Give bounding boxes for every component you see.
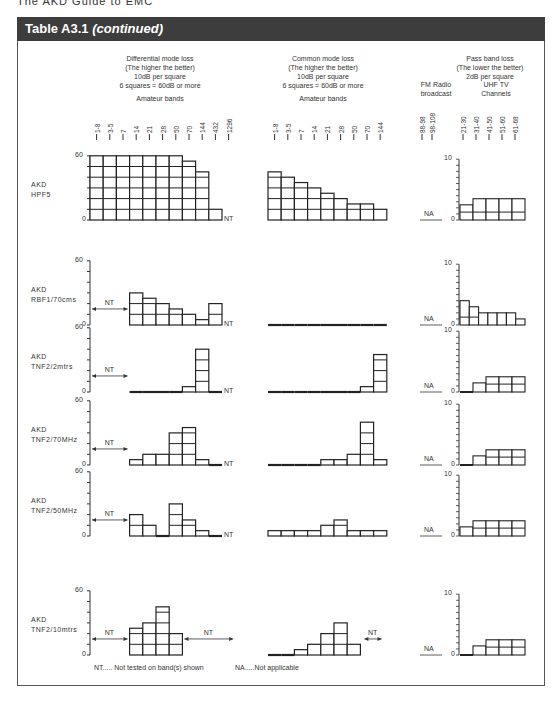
nt-label: NT — [224, 460, 233, 467]
y-axis-zero: 0 — [82, 650, 86, 657]
nt-label: NT — [224, 320, 233, 327]
pass-y-zero: 0 — [451, 387, 455, 394]
nt-label: NT — [368, 629, 377, 636]
nt-label: NT — [105, 510, 114, 517]
chart-canvas — [0, 0, 555, 703]
na-label: NA — [424, 315, 434, 322]
y-axis-max: 60 — [75, 396, 83, 403]
legend-na: NA.....Not applicable — [235, 664, 299, 671]
nt-label: NT — [204, 629, 213, 636]
pass-y-max: 10 — [444, 470, 452, 477]
y-axis-max: 60 — [75, 467, 83, 474]
pass-y-max: 10 — [444, 399, 452, 406]
y-axis-zero: 0 — [82, 387, 86, 394]
pass-y-max: 10 — [444, 589, 452, 596]
pass-y-zero: 0 — [451, 460, 455, 467]
legend-nt: NT..... Not tested on band(s) shown — [94, 664, 204, 671]
na-label: NA — [424, 645, 434, 652]
pass-y-max: 10 — [444, 326, 452, 333]
y-axis-max: 60 — [75, 586, 83, 593]
pass-y-zero: 0 — [451, 650, 455, 657]
y-axis-zero: 0 — [82, 531, 86, 538]
nt-label: NT — [105, 439, 114, 446]
pass-y-max: 10 — [444, 154, 452, 161]
pass-y-zero: 0 — [451, 215, 455, 222]
na-label: NA — [424, 455, 434, 462]
pass-y-zero: 0 — [451, 531, 455, 538]
nt-label: NT — [105, 366, 114, 373]
nt-label: NT — [105, 629, 114, 636]
y-axis-zero: 0 — [82, 215, 86, 222]
y-axis-max: 60 — [75, 256, 83, 263]
nt-label: NT — [224, 215, 233, 222]
na-label: NA — [424, 210, 434, 217]
na-label: NA — [424, 526, 434, 533]
y-axis-max: 60 — [75, 323, 83, 330]
nt-label: NT — [224, 531, 233, 538]
pass-y-max: 10 — [444, 259, 452, 266]
y-axis-max: 60 — [75, 151, 83, 158]
na-label: NA — [424, 382, 434, 389]
nt-label: NT — [224, 387, 233, 394]
nt-label: NT — [105, 299, 114, 306]
